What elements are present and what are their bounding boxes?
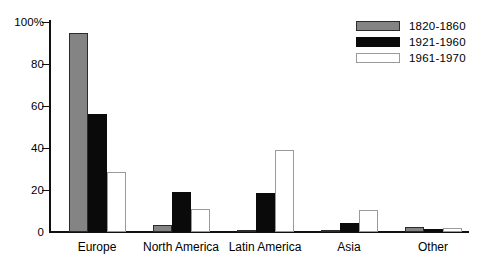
bar-group	[237, 22, 294, 232]
bar	[107, 172, 126, 232]
y-axis-labels: 020406080100%	[0, 0, 44, 272]
bar-group	[69, 22, 126, 232]
bar	[275, 150, 294, 232]
bar	[256, 193, 275, 232]
bar-group	[153, 22, 210, 232]
bar	[88, 114, 107, 232]
legend-swatch-icon	[356, 37, 400, 47]
bar	[405, 227, 424, 232]
bar	[191, 209, 210, 232]
x-axis-category-label: Asia	[337, 240, 360, 254]
legend-item: 1961-1970	[356, 51, 466, 64]
y-axis-tick	[42, 64, 49, 65]
y-axis-tick	[42, 106, 49, 107]
legend-label: 1820-1860	[409, 20, 466, 32]
x-axis-category-label: North America	[143, 240, 219, 254]
legend-label: 1921-1960	[409, 36, 466, 48]
legend-swatch-icon	[356, 21, 400, 31]
legend-item: 1820-1860	[356, 19, 466, 32]
bar	[443, 228, 462, 232]
bar	[69, 33, 88, 233]
legend-item: 1921-1960	[356, 35, 466, 48]
y-axis-tick	[42, 22, 49, 23]
bar	[153, 225, 172, 232]
x-axis-category-label: Europe	[78, 240, 117, 254]
legend-swatch-icon	[356, 53, 400, 63]
x-axis-category-label: Latin America	[229, 240, 302, 254]
y-axis-tick	[42, 148, 49, 149]
bar	[237, 230, 256, 232]
x-axis-category-label: Other	[418, 240, 448, 254]
bar	[340, 223, 359, 232]
chart-legend: 1820-18601921-19601961-1970	[356, 19, 466, 67]
bar	[424, 229, 443, 232]
y-axis-tick-label: 100%	[14, 16, 44, 28]
legend-label: 1961-1970	[409, 52, 466, 64]
bar	[172, 192, 191, 232]
y-axis-tick	[42, 190, 49, 191]
bar-chart: 020406080100% 1820-18601921-19601961-197…	[0, 0, 487, 272]
bar	[359, 210, 378, 232]
bar	[321, 230, 340, 232]
y-axis-tick-label: 0	[38, 226, 45, 238]
